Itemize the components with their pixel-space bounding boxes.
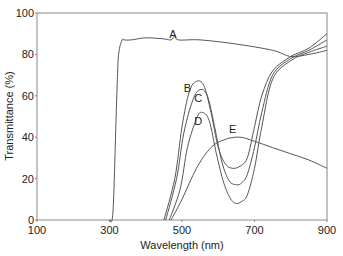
- curve-label-d: D: [194, 115, 202, 127]
- x-axis-label: Wavelength (nm): [140, 239, 223, 251]
- x-tick-label: 300: [100, 224, 118, 236]
- y-tick-label: 40: [22, 131, 34, 143]
- y-tick-label: 80: [22, 48, 34, 60]
- y-tick-label: 60: [22, 90, 34, 102]
- curve-e: [171, 137, 327, 220]
- curve-label-b: B: [184, 82, 191, 94]
- curve-b: [164, 34, 327, 220]
- chart-canvas: 020406080100 100300500700900 ABCDE Wavel…: [0, 0, 343, 256]
- y-tick-label: 100: [16, 7, 34, 19]
- y-tick-label: 20: [22, 173, 34, 185]
- x-tick-label: 900: [318, 224, 336, 236]
- x-tick-label: 500: [173, 224, 191, 236]
- transmittance-chart: 020406080100 100300500700900 ABCDE Wavel…: [0, 0, 343, 256]
- curve-a: [110, 36, 328, 222]
- y-axis-label: Transmittance (%): [3, 71, 15, 160]
- plot-frame: [37, 13, 327, 220]
- curve-c: [166, 40, 327, 220]
- x-tick-label: 100: [28, 224, 46, 236]
- curves: [110, 34, 328, 222]
- curve-labels: ABCDE: [169, 28, 236, 135]
- x-axis-ticks: 100300500700900: [28, 220, 336, 236]
- curve-d: [169, 46, 327, 220]
- y-axis-ticks: 020406080100: [16, 7, 37, 226]
- x-tick-label: 700: [245, 224, 263, 236]
- curve-label-c: C: [194, 92, 202, 104]
- curve-label-a: A: [169, 28, 177, 40]
- curve-label-e: E: [229, 123, 236, 135]
